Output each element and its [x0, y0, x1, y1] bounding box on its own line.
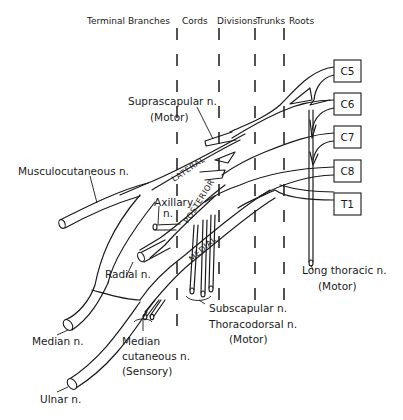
header-divisions: Divisions — [217, 16, 258, 26]
label-median: Median n. — [32, 335, 84, 347]
label-axillary-1: Axillary — [154, 196, 193, 208]
root-label-c5: C5 — [340, 65, 354, 77]
label-median-cutaneous-1: Median — [122, 335, 160, 347]
root-label-t1: T1 — [340, 198, 354, 210]
label-subscapular: Subscapular n. — [209, 302, 287, 314]
root-label-c8: C8 — [340, 165, 354, 177]
label-radial: Radial n. — [105, 268, 151, 280]
header-trunks: Trunks — [255, 16, 285, 26]
root-label-c6: C6 — [340, 98, 354, 110]
label-median-cutaneous-type: (Sensory) — [122, 365, 172, 377]
label-musculocutaneous: Musculocutaneous n. — [18, 165, 129, 177]
header-roots: Roots — [289, 16, 314, 26]
root-label-c7: C7 — [340, 131, 354, 143]
label-ulnar: Ulnar n. — [40, 393, 81, 405]
header-cords: Cords — [182, 16, 208, 26]
label-long-thoracic-type: (Motor) — [318, 280, 357, 292]
label-thoracodorsal: Thoracodorsal n. — [208, 318, 297, 330]
label-median-cutaneous-2: cutaneous n. — [122, 350, 190, 362]
nerve-paths — [58, 67, 334, 391]
label-long-thoracic: Long thoracic n. — [302, 264, 387, 276]
root-boxes: C5 C6 C7 C8 T1 — [334, 60, 361, 215]
header-terminal-branches: Terminal Branches — [86, 16, 170, 26]
label-axillary-2: n. — [163, 207, 173, 219]
cord-label-lateral: LATERAL — [170, 155, 207, 184]
column-headers: Terminal Branches Cords Divisions Trunks… — [86, 16, 314, 26]
label-suprascapular: Suprascapular n. — [128, 95, 217, 107]
label-suprascapular-type: (Motor) — [150, 111, 189, 123]
section-dividers — [177, 28, 284, 330]
label-thoracodorsal-type: (Motor) — [229, 333, 268, 345]
brachial-plexus-diagram: Terminal Branches Cords Divisions Trunks… — [0, 0, 403, 420]
